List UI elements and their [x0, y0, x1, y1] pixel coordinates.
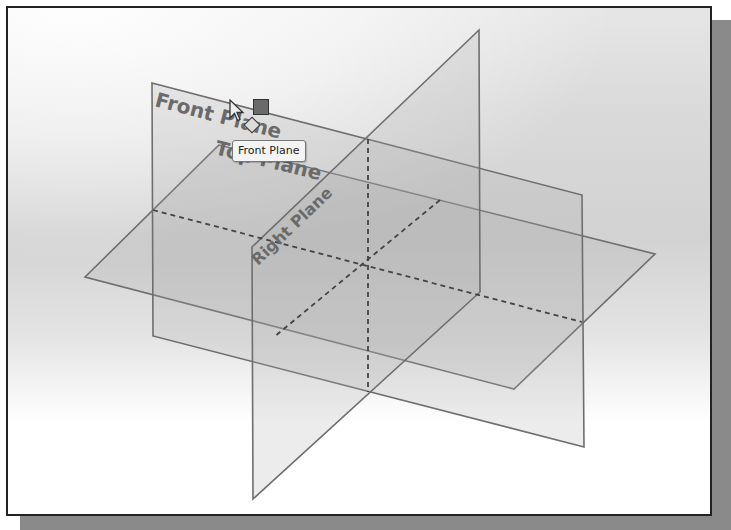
graphics-viewport[interactable]: Front Plane Top Plane Right Plane	[6, 6, 712, 516]
tooltip: Front Plane	[232, 140, 306, 162]
right-plane[interactable]	[252, 30, 480, 499]
selection-square-icon	[253, 99, 269, 115]
plane-scene: Front Plane Top Plane Right Plane	[8, 8, 712, 516]
cursor-arrow-icon	[229, 99, 245, 123]
